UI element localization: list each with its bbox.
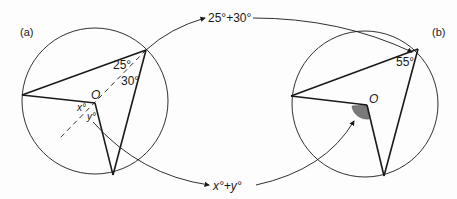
diagram-graphics (0, 0, 457, 199)
bottom-sum-label: x°+y° (213, 180, 242, 192)
angle-25-label: 25° (113, 59, 131, 71)
panel-b-figure (291, 31, 438, 177)
circle-theorem-diagram: (a) O 25° 30° x° y° (b) O 55° 25°+30° x°… (0, 0, 457, 199)
center-o-label-b: O (369, 93, 378, 105)
panel-a-label: (a) (20, 26, 33, 38)
angle-y-label: y° (87, 111, 96, 123)
angle-30-label: 30° (121, 75, 139, 87)
panel-b-label: (b) (432, 26, 445, 38)
angle-55-label: 55° (396, 56, 414, 68)
angle-x-label: x° (77, 102, 86, 114)
top-sum-label: 25°+30° (208, 12, 251, 24)
center-o-label-a: O (91, 89, 100, 101)
